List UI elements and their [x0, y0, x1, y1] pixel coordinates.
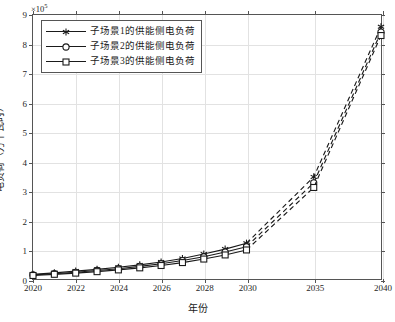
y-axis-tick-right: [381, 133, 385, 134]
x-axis-tick-label: 2035: [306, 283, 324, 293]
series-line-forecast: [246, 36, 381, 250]
data-point-square-marker: [30, 273, 36, 279]
data-point-square-marker: [179, 260, 185, 266]
y-axis-tick-right: [381, 74, 385, 75]
y-axis-tick-label: 6: [23, 99, 28, 108]
data-point-circle-marker: [63, 43, 69, 49]
legend-label: 子场景2的供能侧电负荷: [90, 41, 195, 52]
x-axis-title: 年份: [0, 300, 395, 315]
y-axis-tick-label: 4: [23, 158, 28, 167]
y-axis-tick-right: [381, 251, 385, 252]
legend-sample-square: [46, 55, 86, 69]
legend-marker-asterisk-icon: [59, 25, 73, 39]
data-point-square-marker: [244, 247, 250, 253]
data-point-square-marker: [222, 252, 228, 258]
data-point-square-marker: [51, 271, 57, 277]
y-axis-tick-right: [381, 45, 385, 46]
data-point-square-marker: [63, 59, 69, 65]
chart-legend: 子场景1的供能侧电负荷子场景2的供能侧电负荷子场景3的供能侧电负荷: [41, 20, 202, 73]
x-axis-tick-label: 2024: [110, 283, 128, 293]
data-point-asterisk-marker: [63, 28, 69, 35]
y-axis-tick-label: 7: [23, 70, 28, 79]
data-point-square-marker: [378, 33, 384, 39]
y-axis-tick-right: [381, 15, 385, 16]
x-axis-tick-label: 2028: [196, 283, 214, 293]
plot-area: 0123456789202020222024202620282030203520…: [32, 14, 382, 280]
legend-marker-circle-icon: [59, 40, 73, 54]
y-axis-tick-label: 9: [23, 11, 28, 20]
data-point-square-marker: [94, 269, 100, 275]
legend-marker-square-icon: [59, 55, 73, 69]
data-point-square-marker: [311, 185, 317, 191]
legend-item-2[interactable]: 子场景2的供能侧电负荷: [46, 39, 195, 54]
data-point-square-marker: [201, 256, 207, 262]
y-axis-tick-right: [381, 163, 385, 164]
y-axis-tick-label: 5: [23, 129, 28, 138]
y-axis-tick-label: 8: [23, 40, 28, 49]
series-line-forecast: [246, 32, 381, 247]
data-point-square-marker: [137, 265, 143, 271]
x-axis-tick-top: [383, 11, 384, 15]
legend-label: 子场景1的供能侧电负荷: [90, 26, 195, 37]
data-point-square-marker: [158, 263, 164, 269]
y-axis-title: 电负荷（万千瓦时）: [0, 102, 6, 192]
y-axis-tick-label: 2: [23, 217, 28, 226]
legend-item-1[interactable]: 子场景1的供能侧电负荷: [46, 24, 195, 39]
series-line-forecast: [246, 27, 381, 243]
data-point-square-marker: [73, 270, 79, 276]
data-point-square-marker: [115, 267, 121, 273]
legend-item-3[interactable]: 子场景3的供能侧电负荷: [46, 54, 195, 69]
x-axis-tick-label: 2030: [239, 283, 257, 293]
x-axis-tick-label: 2040: [374, 283, 392, 293]
x-axis-tick-label: 2022: [67, 283, 85, 293]
y-axis-tick-right: [381, 222, 385, 223]
gridline-vertical: [383, 15, 384, 279]
legend-label: 子场景3的供能侧电负荷: [90, 56, 195, 67]
y-axis-tick-right: [381, 192, 385, 193]
y-axis-tick-label: 3: [23, 188, 28, 197]
y-axis-tick-label: 1: [23, 247, 28, 256]
y-axis-exponent-power: 5: [44, 2, 47, 9]
y-axis-tick-right: [381, 104, 385, 105]
chart-figure: ×105 电负荷（万千瓦时） 年份 0123456789202020222024…: [0, 0, 395, 322]
x-axis-tick-label: 2026: [153, 283, 171, 293]
legend-sample-asterisk: [46, 25, 86, 39]
legend-sample-circle: [46, 40, 86, 54]
x-axis-tick-label: 2020: [24, 283, 42, 293]
